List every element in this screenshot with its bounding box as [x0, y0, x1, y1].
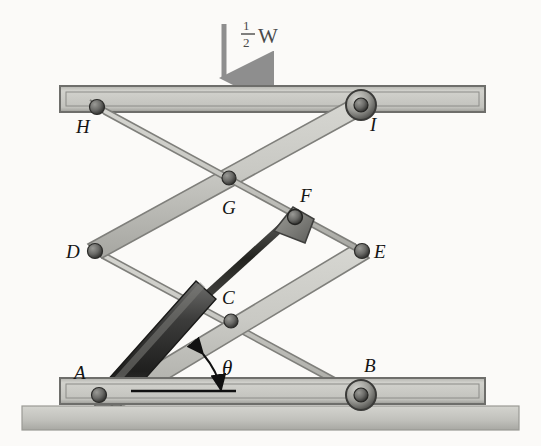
joint-D-pin-icon — [88, 244, 103, 259]
label-H: H — [75, 116, 91, 137]
joint-F — [288, 210, 303, 225]
load-symbol: W — [258, 24, 278, 48]
load-arrow-group: 1 2 W — [224, 18, 278, 78]
label-G: G — [222, 197, 236, 218]
joint-B-pin-icon — [354, 388, 368, 402]
joint-E-pin-icon — [355, 244, 370, 259]
joint-B — [346, 380, 376, 410]
label-I: I — [369, 114, 378, 135]
theta-label: θ — [222, 356, 232, 380]
joint-A — [92, 388, 107, 403]
top-platform-body — [60, 86, 485, 112]
joint-E — [355, 244, 370, 259]
ground-slab-body — [22, 406, 519, 430]
joint-C-pin-icon — [224, 314, 238, 328]
joint-I-pin-icon — [354, 98, 368, 112]
load-denominator: 2 — [243, 35, 250, 50]
scissor-lift-figure: 1 2 W — [0, 0, 541, 446]
joint-H — [90, 100, 105, 115]
ground-slab — [22, 406, 519, 430]
label-F: F — [299, 185, 312, 206]
top-platform — [60, 86, 485, 112]
label-C: C — [222, 287, 235, 308]
label-B: B — [364, 355, 376, 376]
joint-G-pin-icon — [222, 171, 236, 185]
joint-G — [222, 171, 236, 185]
figure-canvas: 1 2 W — [0, 0, 541, 446]
label-A: A — [72, 362, 86, 383]
joint-H-pin-icon — [90, 100, 105, 115]
joint-C — [224, 314, 238, 328]
cylinder-rod — [209, 223, 286, 293]
bottom-platform-body — [60, 378, 485, 404]
joint-A-pin-icon — [92, 388, 107, 403]
label-D: D — [65, 241, 80, 262]
joint-F-pin-icon — [288, 210, 303, 225]
joint-D — [88, 244, 103, 259]
label-E: E — [373, 241, 386, 262]
load-numerator: 1 — [243, 18, 250, 33]
bottom-platform — [60, 378, 485, 404]
